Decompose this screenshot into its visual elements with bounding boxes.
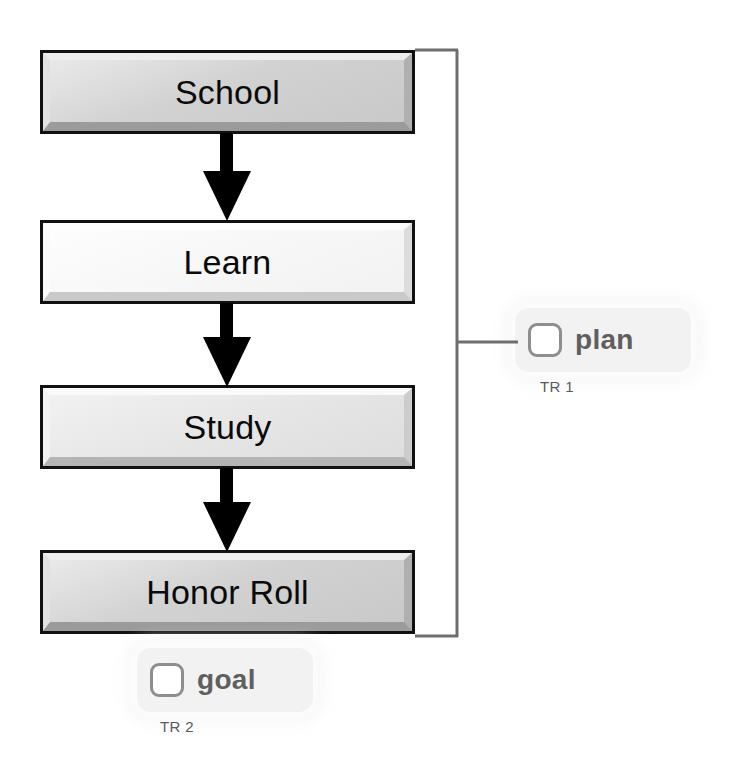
arrow-school-to-learn	[192, 133, 262, 223]
node-learn[interactable]: Learn	[40, 220, 415, 304]
checkbox-icon[interactable]	[528, 323, 562, 357]
node-honor-roll[interactable]: Honor Roll	[40, 550, 415, 634]
callout-label: goal	[197, 666, 256, 694]
node-study[interactable]: Study	[40, 385, 415, 469]
callout-plan[interactable]: plan	[515, 308, 691, 372]
node-label: Study	[184, 410, 272, 444]
arrow-study-to-honor-roll	[192, 468, 262, 554]
callout-goal[interactable]: goal	[137, 648, 313, 712]
callout-caption-tr2: TR 2	[160, 718, 194, 735]
callout-caption-tr1: TR 1	[540, 378, 574, 395]
arrow-learn-to-study	[192, 303, 262, 389]
node-label: Learn	[184, 245, 272, 279]
node-label: Honor Roll	[146, 575, 309, 609]
node-school[interactable]: School	[40, 50, 415, 134]
callout-label: plan	[575, 326, 634, 354]
checkbox-icon[interactable]	[150, 663, 184, 697]
plan-bracket	[408, 40, 528, 650]
node-label: School	[175, 75, 280, 109]
diagram-canvas: School Learn Study Honor Roll plan TR 1 …	[0, 0, 732, 769]
